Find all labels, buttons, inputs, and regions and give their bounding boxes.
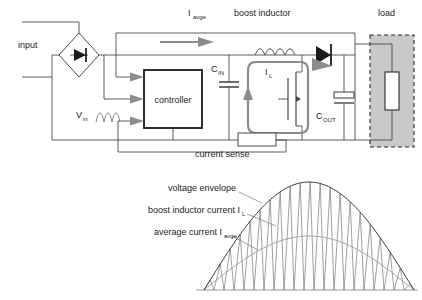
v-in-label: V in xyxy=(76,110,88,122)
sense-resistor xyxy=(238,133,276,146)
svg-text:V: V xyxy=(76,110,82,120)
annotation-average-current-text: average current I xyxy=(154,227,222,237)
svg-text:in: in xyxy=(83,116,88,122)
c-out-label: C OUT xyxy=(316,111,336,123)
svg-text:L: L xyxy=(269,73,273,79)
i-l-label: I L xyxy=(265,67,273,79)
annotation-voltage-envelope-text: voltage envelope xyxy=(168,183,236,193)
output-capacitor xyxy=(334,55,354,140)
figure-root: controller xyxy=(0,0,422,300)
i-avge-label: I avge xyxy=(188,8,207,20)
boost-inductor xyxy=(255,49,295,56)
svg-text:I: I xyxy=(265,67,268,77)
annotation-average-current: average current I avge xyxy=(154,227,238,239)
load-block xyxy=(355,35,414,147)
average-current-series xyxy=(204,236,414,290)
bridge-rectifier xyxy=(59,33,99,77)
svg-text:IN: IN xyxy=(218,70,224,76)
input-label: input xyxy=(18,40,38,50)
current-sense-label: current sense xyxy=(195,149,250,159)
annotation-average-current-sub: avge xyxy=(224,233,238,239)
c-in-label: C IN xyxy=(211,64,224,76)
svg-text:I: I xyxy=(188,8,191,18)
figure-canvas: controller xyxy=(0,0,422,300)
annotation-boost-inductor-current-text: boost inductor current I xyxy=(148,205,240,215)
boost-inductor-label: boost inductor xyxy=(234,8,291,18)
controller-input-lines xyxy=(104,55,144,152)
annotation-voltage-envelope: voltage envelope xyxy=(168,183,236,193)
input-capacitor xyxy=(219,55,239,140)
annotation-boost-inductor-current-sub: L xyxy=(242,211,246,217)
i-avge-arrow-icon xyxy=(160,37,214,47)
vin-waveform-icon xyxy=(96,113,120,122)
svg-text:avge: avge xyxy=(193,14,207,20)
controller-label: controller xyxy=(154,95,191,105)
svg-text:C: C xyxy=(211,64,218,74)
mosfet-switch xyxy=(278,55,302,140)
svg-text:OUT: OUT xyxy=(323,117,336,123)
annotation-boost-inductor-current: boost inductor current I L xyxy=(148,205,246,217)
svg-text:C: C xyxy=(316,111,323,121)
load-label: load xyxy=(378,8,395,18)
